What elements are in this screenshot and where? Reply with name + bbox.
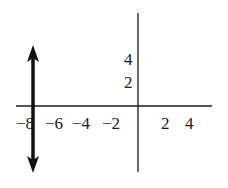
graph: −8 −6 −4 −2 2 4 2 4 [0,0,228,188]
coordinate-plane: −8 −6 −4 −2 2 4 2 4 [0,0,228,188]
svg-text:2: 2 [161,114,170,133]
svg-text:4: 4 [124,50,133,69]
svg-text:−4: −4 [72,114,91,133]
vertical-line-series [27,45,39,173]
svg-text:2: 2 [124,73,133,92]
y-tick-labels: 2 4 [124,50,133,92]
svg-text:−2: −2 [102,114,120,133]
svg-text:4: 4 [185,114,194,133]
svg-text:−6: −6 [45,114,63,133]
x-tick-labels: −8 −6 −4 −2 2 4 [16,114,194,133]
svg-text:−8: −8 [16,114,34,133]
